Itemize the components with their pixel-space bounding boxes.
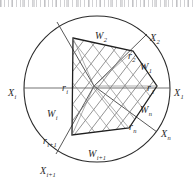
radius-label-ri: ri — [62, 78, 68, 94]
rn-sub: n — [133, 127, 136, 134]
figure-container: W2 W1 Wi Wi+1 Wn r1 r2 ri ri+1 rn X1 X2 … — [0, 0, 193, 180]
region-label-wi1: Wi+1 — [88, 144, 106, 160]
w2-base: W — [95, 30, 103, 41]
xi-sub: i — [14, 93, 16, 100]
radius-label-r1: r1 — [147, 78, 154, 94]
segment-center-top-left — [73, 38, 94, 86]
wi1-base: W — [88, 148, 96, 159]
wn-sub: n — [149, 110, 152, 117]
radius-label-rn: rn — [129, 117, 136, 133]
point-label-x2: X2 — [150, 28, 159, 44]
radius-label-r2: r2 — [128, 46, 135, 62]
xi1-sub: i+1 — [46, 171, 55, 178]
w1-sub: 1 — [149, 67, 152, 74]
w1-base: W — [140, 61, 148, 72]
wi-base: W — [47, 108, 55, 119]
center-to-vertex-segments — [72, 38, 157, 135]
x2-sub: 2 — [156, 38, 159, 45]
region-label-wn: Wn — [140, 100, 152, 116]
inscribed-polygon — [72, 38, 157, 135]
radial-line-to-xtop — [57, 22, 94, 86]
r2-sub: 2 — [132, 56, 135, 63]
ri-sub: i — [66, 88, 68, 95]
point-label-x1: X1 — [174, 83, 183, 99]
point-label-xi1: Xi+1 — [40, 161, 56, 177]
point-label-xn: Xn — [161, 124, 170, 140]
w2-sub: 2 — [104, 36, 107, 43]
wi1-sub: i+1 — [97, 154, 106, 161]
r1-sub: 1 — [151, 88, 154, 95]
radius-label-ri1: ri+1 — [43, 131, 56, 147]
point-label-xi: Xi — [8, 83, 16, 99]
xn-sub: n — [167, 134, 170, 141]
segment-center-bottom-right — [94, 86, 129, 128]
wn-base: W — [140, 104, 148, 115]
ri1-sub: i+1 — [47, 141, 56, 148]
segment-center-bottom-left — [72, 86, 94, 135]
region-label-w2: W2 — [95, 26, 107, 42]
region-label-wi: Wi — [47, 104, 57, 120]
x1-sub: 1 — [180, 93, 183, 100]
region-label-w1: W1 — [140, 57, 152, 73]
